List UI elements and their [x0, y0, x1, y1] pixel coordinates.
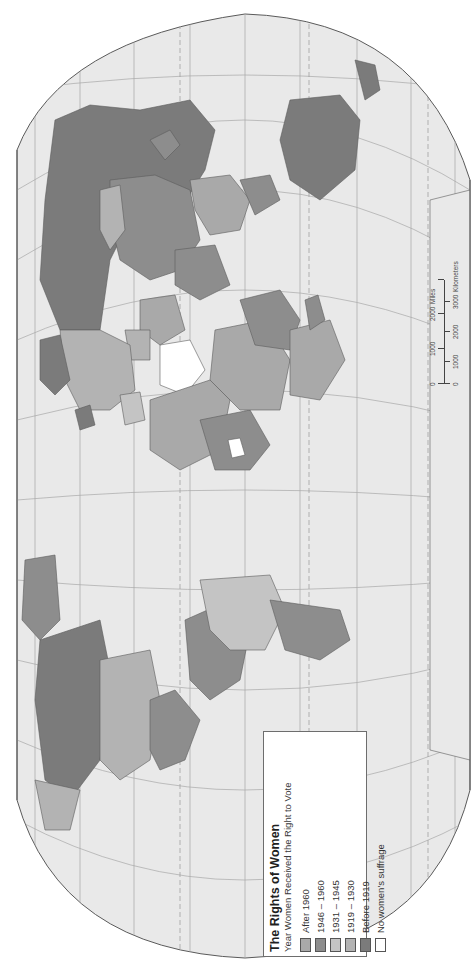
legend-item-no-suffrage: No women's suffrage: [374, 738, 387, 952]
scale-tick: [438, 383, 450, 384]
scale-miles-0: 0: [429, 382, 436, 386]
swatch-before-1919: [360, 938, 371, 952]
scale-miles-1000: 1000: [429, 342, 436, 356]
scale-tick: [438, 279, 444, 280]
scale-bar: 0 1000 2000 Miles 0 1000 2000 3000 Kilom…: [420, 250, 470, 390]
legend-title: The Rights of Women: [269, 738, 282, 952]
scale-tick: [444, 361, 450, 362]
map-legend: The Rights of Women Year Women Received …: [263, 731, 367, 957]
scale-tick: [438, 313, 444, 314]
legend-item-1919-1930: 1919 – 1930: [344, 738, 357, 952]
scale-tick: [444, 331, 450, 332]
scale-miles-label: Miles: [429, 289, 436, 304]
scale-km-1000: 1000: [452, 355, 459, 369]
scale-tick: [438, 348, 444, 349]
swatch-1946-1960: [315, 938, 326, 952]
scale-km-3000: 3000: [452, 295, 459, 309]
scale-line: [444, 280, 445, 384]
legend-item-after-1960: After 1960: [299, 738, 312, 952]
legend-subtitle: Year Women Received the Right to Vote: [282, 738, 293, 952]
swatch-1931-1945: [330, 938, 341, 952]
map-canvas: [0, 0, 475, 972]
scale-tick: [444, 301, 450, 302]
swatch-after-1960: [300, 938, 311, 952]
legend-item-1931-1945: 1931 – 1945: [329, 738, 342, 952]
legend-item-1946-1960: 1946 – 1960: [314, 738, 327, 952]
swatch-no-suffrage: [375, 938, 386, 952]
world-map: [0, 0, 475, 972]
scale-km-2000: 2000: [452, 325, 459, 339]
scale-miles-2000: 2000: [429, 307, 436, 321]
swatch-1919-1930: [345, 938, 356, 952]
scale-km-0: 0: [452, 382, 459, 386]
legend-item-before-1919: Before 1919: [359, 738, 372, 952]
scale-km-label: Kilometers: [452, 261, 459, 292]
